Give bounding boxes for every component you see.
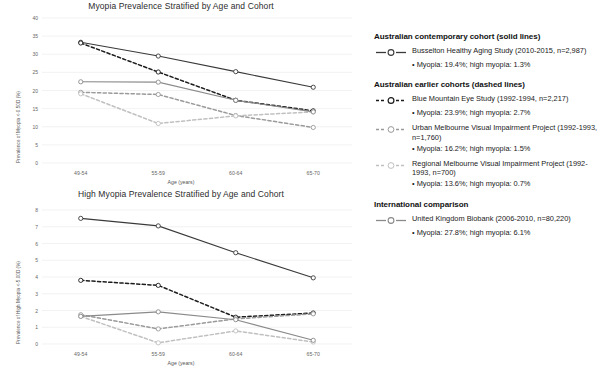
x-axis-title: Age (years) xyxy=(0,179,362,185)
plot-area-top: 051015202530354049-5455-5960-6465-70Prev… xyxy=(0,0,362,188)
series-line xyxy=(81,280,314,317)
charts-column: Myopia Prevalence Stratified by Age and … xyxy=(0,0,362,376)
legend-entry-stat: • Myopia: 13.6%; high myopia: 0.7% xyxy=(412,179,603,188)
y-axis-tick-label: 30 xyxy=(22,51,38,57)
legend-entry-label: Busselton Healthy Aging Study (2010-2015… xyxy=(412,46,586,55)
y-axis-tick-label: 7 xyxy=(22,224,38,230)
legend-line-icon xyxy=(374,160,408,171)
y-axis-tick-label: 0 xyxy=(22,160,38,166)
chart-myopia-prevalence: Myopia Prevalence Stratified by Age and … xyxy=(0,0,362,188)
data-point-marker xyxy=(234,251,238,255)
legend-entry-row: Blue Mountain Eye Study (1992-1994, n=2,… xyxy=(374,94,603,106)
y-axis-tick-label: 20 xyxy=(22,88,38,94)
legend-entry-stat: • Myopia: 23.9%; high myopia: 2.7% xyxy=(412,108,603,117)
y-axis-tick-label: 35 xyxy=(22,33,38,39)
data-point-marker xyxy=(311,276,315,280)
chart-high-myopia-prevalence: High Myopia Prevalence Stratified by Age… xyxy=(0,188,362,376)
x-axis-tick-label: 49-54 xyxy=(61,351,101,357)
x-axis-tick-label: 65-70 xyxy=(293,170,333,176)
legend-entry-label: Blue Mountain Eye Study (1992-1994, n=2,… xyxy=(412,94,568,103)
data-point-marker xyxy=(79,41,83,45)
legend-line-icon xyxy=(374,47,408,58)
y-axis-tick-label: 6 xyxy=(22,241,38,247)
data-point-marker xyxy=(79,92,83,96)
x-axis-tick-label: 60-64 xyxy=(216,351,256,357)
legend-entry-label: United Kingdom Biobank (2006-2010, n=80,… xyxy=(412,214,571,223)
data-point-marker xyxy=(311,85,315,89)
legend-entry[interactable]: Busselton Healthy Aging Study (2010-2015… xyxy=(374,46,603,69)
legend-entry-label: Regional Melbourne Visual Impairment Pro… xyxy=(412,159,603,177)
plot-area-bottom: 01234567849-5455-5960-6465-70Prevalence … xyxy=(0,188,362,376)
legend-swatch-dashed-dark-marker xyxy=(374,95,408,106)
y-axis-tick-label: 15 xyxy=(22,106,38,112)
legend-line-icon xyxy=(374,124,408,135)
data-point-marker xyxy=(156,54,160,58)
legend-swatch-dashed-gray-marker xyxy=(374,124,408,135)
series-line xyxy=(81,218,314,277)
x-axis-tick-label: 55-59 xyxy=(138,170,178,176)
legend-entry-stat: • Myopia: 19.4%; high myopia: 1.3% xyxy=(412,60,603,69)
y-axis-tick-label: 5 xyxy=(22,142,38,148)
data-point-marker xyxy=(234,114,238,118)
x-axis-title: Age (years) xyxy=(0,360,362,366)
data-point-marker xyxy=(234,70,238,74)
y-axis-tick-label: 3 xyxy=(22,291,38,297)
data-point-marker xyxy=(156,341,160,345)
legend-entry[interactable]: Blue Mountain Eye Study (1992-1994, n=2,… xyxy=(374,94,603,117)
legend-entry-stat: • Myopia: 27.8%; high myopia: 6.1% xyxy=(412,228,603,237)
figure-root: Myopia Prevalence Stratified by Age and … xyxy=(0,0,609,376)
data-point-marker xyxy=(79,314,83,318)
legend-entry[interactable]: Urban Melbourne Visual Impairment Projec… xyxy=(374,123,603,153)
data-point-marker xyxy=(311,312,315,316)
legend-group-heading: Australian contemporary cohort (solid li… xyxy=(374,32,603,41)
y-axis-tick-label: 5 xyxy=(22,257,38,263)
data-point-marker xyxy=(156,283,160,287)
legend-swatch-solid-dark-marker xyxy=(374,47,408,58)
data-point-marker xyxy=(156,224,160,228)
legend-entry-row: United Kingdom Biobank (2006-2010, n=80,… xyxy=(374,214,603,226)
series-line xyxy=(81,92,314,127)
x-axis-tick-label: 55-59 xyxy=(138,351,178,357)
y-axis-tick-label: 2 xyxy=(22,308,38,314)
legend: Australian contemporary cohort (solid li… xyxy=(362,0,609,376)
data-point-marker xyxy=(234,329,238,333)
legend-swatch-solid-gray-marker xyxy=(374,215,408,226)
legend-line-icon xyxy=(374,215,408,226)
data-point-marker xyxy=(156,327,160,331)
series-line xyxy=(81,42,314,87)
y-axis-tick-label: 40 xyxy=(22,15,38,21)
data-point-marker xyxy=(234,318,238,322)
y-axis-title: Prevalence of Myopia <-0.50D (%) xyxy=(16,91,21,163)
x-axis-tick-label: 49-54 xyxy=(61,170,101,176)
legend-line-icon xyxy=(374,95,408,106)
legend-entry-row: Busselton Healthy Aging Study (2010-2015… xyxy=(374,46,603,58)
data-point-marker xyxy=(79,278,83,282)
data-point-marker xyxy=(311,338,315,342)
y-axis-tick-label: 8 xyxy=(22,207,38,213)
chart-svg xyxy=(0,0,362,188)
data-point-marker xyxy=(156,121,160,125)
data-point-marker xyxy=(156,70,160,74)
x-axis-tick-label: 65-70 xyxy=(293,351,333,357)
legend-group-heading: International comparison xyxy=(374,200,603,209)
data-point-marker xyxy=(156,80,160,84)
legend-entry[interactable]: Regional Melbourne Visual Impairment Pro… xyxy=(374,159,603,189)
legend-group-heading: Australian earlier cohorts (dashed lines… xyxy=(374,80,603,89)
legend-entry-row: Regional Melbourne Visual Impairment Pro… xyxy=(374,159,603,177)
y-axis-tick-label: 10 xyxy=(22,124,38,130)
legend-entry-row: Urban Melbourne Visual Impairment Projec… xyxy=(374,123,603,141)
y-axis-tick-label: 1 xyxy=(22,324,38,330)
y-axis-tick-label: 25 xyxy=(22,69,38,75)
y-axis-tick-label: 4 xyxy=(22,274,38,280)
x-axis-tick-label: 60-64 xyxy=(216,170,256,176)
y-axis-title: Prevalence of High Myopia <-5.00D (%) xyxy=(16,261,21,344)
chart-svg xyxy=(0,188,362,376)
legend-entry[interactable]: United Kingdom Biobank (2006-2010, n=80,… xyxy=(374,214,603,237)
data-point-marker xyxy=(156,310,160,314)
series-line xyxy=(81,43,314,111)
legend-swatch-dashed-lightgray-marker xyxy=(374,160,408,171)
series-line xyxy=(81,316,314,342)
data-point-marker xyxy=(79,216,83,220)
data-point-marker xyxy=(79,80,83,84)
legend-entry-stat: • Myopia: 16.2%; high myopia: 1.5% xyxy=(412,144,603,153)
